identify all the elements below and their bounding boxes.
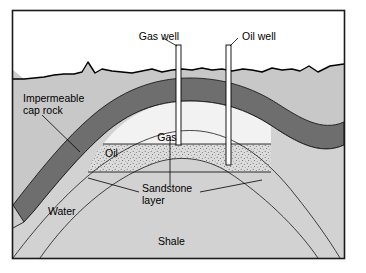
gas-well-label: Gas well bbox=[139, 30, 179, 42]
diagram-root: Gas well Oil well Impermeable cap rock G… bbox=[0, 0, 366, 273]
oil-label: Oil bbox=[105, 147, 118, 159]
impermeable-cap-rock-label-line1: Impermeable bbox=[23, 92, 84, 104]
oil-well-casing[interactable] bbox=[226, 45, 231, 165]
geology-cross-section-diagram: Gas well Oil well Impermeable cap rock G… bbox=[0, 0, 366, 273]
oil-well-label: Oil well bbox=[242, 30, 276, 42]
gas-well-casing[interactable] bbox=[176, 45, 181, 145]
impermeable-cap-rock-label-line2: cap rock bbox=[23, 104, 63, 116]
water-label: Water bbox=[48, 205, 76, 217]
gas-label: Gas bbox=[157, 131, 176, 143]
sandstone-layer-label-line1: Sandstone bbox=[142, 182, 192, 194]
shale-label: Shale bbox=[158, 235, 185, 247]
sandstone-layer-label-line2: layer bbox=[142, 194, 165, 206]
